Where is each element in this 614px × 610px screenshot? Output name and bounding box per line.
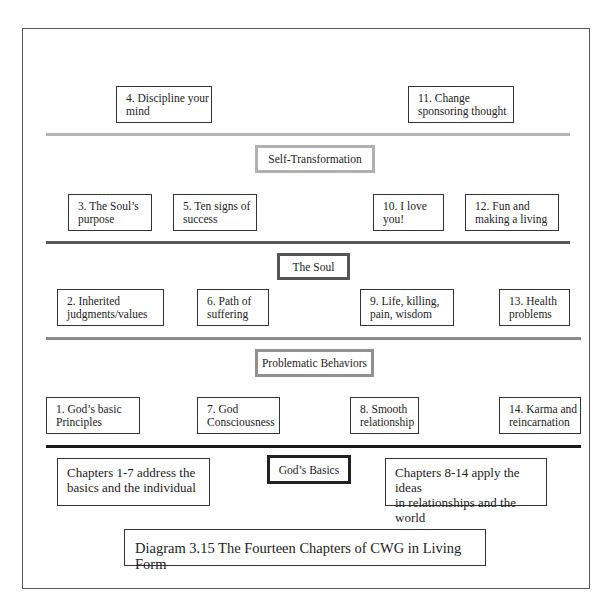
chapter-6-line2: suffering bbox=[207, 308, 268, 321]
chapter-14-box: 14. Karma and reincarnation bbox=[499, 397, 581, 434]
chapter-7-box: 7. God Consciousness bbox=[197, 397, 280, 434]
chapter-2-box: 2. Inherited judgments/values bbox=[57, 289, 164, 326]
chapter-13-box: 13. Health problems bbox=[499, 289, 570, 326]
chapter-14-line2: reincarnation bbox=[509, 416, 580, 429]
note-right-line2: in relationships and the world bbox=[395, 495, 546, 525]
chapter-1-box: 1. God’s basic Principles bbox=[46, 397, 140, 434]
chapter-4-line2: mind bbox=[126, 105, 211, 118]
chapter-3-line2: purpose bbox=[78, 213, 151, 226]
chapter-10-line1: 10. I love bbox=[383, 200, 443, 213]
chapter-14-line1: 14. Karma and bbox=[509, 403, 580, 416]
chapter-3-line1: 3. The Soul’s bbox=[78, 200, 151, 213]
chapter-9-line2: pain, wisdom bbox=[370, 308, 453, 321]
chapter-11-line1: 11. Change bbox=[418, 92, 513, 105]
chapter-13-line1: 13. Health bbox=[509, 295, 569, 308]
chapter-4-box: 4. Discipline your mind bbox=[116, 86, 212, 123]
chapter-6-line1: 6. Path of bbox=[207, 295, 268, 308]
level-label-problematic-behaviors: Problematic Behaviors bbox=[255, 349, 374, 377]
separator-gods-basics bbox=[46, 445, 581, 448]
note-left-line2: basics and the individual bbox=[67, 480, 209, 495]
self-transformation-text: Self-Transformation bbox=[268, 153, 361, 165]
problematic-behaviors-text: Problematic Behaviors bbox=[262, 357, 367, 369]
chapter-5-line2: success bbox=[183, 213, 256, 226]
chapter-10-box: 10. I love you! bbox=[373, 194, 444, 231]
chapter-12-line1: 12. Fun and bbox=[475, 200, 558, 213]
note-left-line1: Chapters 1-7 address the bbox=[67, 465, 209, 480]
chapter-11-box: 11. Change sponsoring thought bbox=[408, 86, 514, 123]
the-soul-text: The Soul bbox=[293, 261, 335, 273]
chapter-3-box: 3. The Soul’s purpose bbox=[68, 194, 152, 231]
chapter-6-box: 6. Path of suffering bbox=[197, 289, 269, 326]
chapter-9-line1: 9. Life, killing, bbox=[370, 295, 453, 308]
chapter-5-line1: 5. Ten signs of bbox=[183, 200, 256, 213]
chapter-4-line1: 4. Discipline your bbox=[126, 92, 211, 105]
chapter-11-line2: sponsoring thought bbox=[418, 105, 513, 118]
chapter-1-line1: 1. God’s basic bbox=[56, 403, 139, 416]
chapter-10-line2: you! bbox=[383, 213, 443, 226]
level-label-gods-basics: God’s Basics bbox=[267, 455, 351, 484]
separator-problematic-behaviors bbox=[46, 337, 581, 340]
chapter-2-line2: judgments/values bbox=[67, 308, 163, 321]
separator-the-soul bbox=[46, 241, 570, 244]
chapter-8-line1: 8. Smooth bbox=[360, 403, 418, 416]
chapter-5-box: 5. Ten signs of success bbox=[173, 194, 257, 231]
chapter-12-box: 12. Fun and making a living bbox=[465, 194, 559, 231]
gods-basics-text: God’s Basics bbox=[279, 464, 339, 476]
separator-self-transformation bbox=[46, 133, 570, 136]
chapter-1-line2: Principles bbox=[56, 416, 139, 429]
note-chapters-8-14: Chapters 8-14 apply the ideas in relatio… bbox=[385, 458, 547, 506]
chapter-7-line2: Consciousness bbox=[207, 416, 279, 429]
level-label-self-transformation: Self-Transformation bbox=[255, 145, 375, 173]
chapter-2-line1: 2. Inherited bbox=[67, 295, 163, 308]
note-chapters-1-7: Chapters 1-7 address the basics and the … bbox=[57, 458, 210, 506]
chapter-8-line2: relationship bbox=[360, 416, 418, 429]
chapter-8-box: 8. Smooth relationship bbox=[350, 397, 419, 434]
chapter-9-box: 9. Life, killing, pain, wisdom bbox=[360, 289, 454, 326]
note-right-line1: Chapters 8-14 apply the ideas bbox=[395, 465, 546, 495]
chapter-12-line2: making a living bbox=[475, 213, 558, 226]
chapter-13-line2: problems bbox=[509, 308, 569, 321]
chapter-7-line1: 7. God bbox=[207, 403, 279, 416]
level-label-the-soul: The Soul bbox=[277, 253, 350, 280]
diagram-caption-box: Diagram 3.15 The Fourteen Chapters of CW… bbox=[124, 529, 486, 566]
